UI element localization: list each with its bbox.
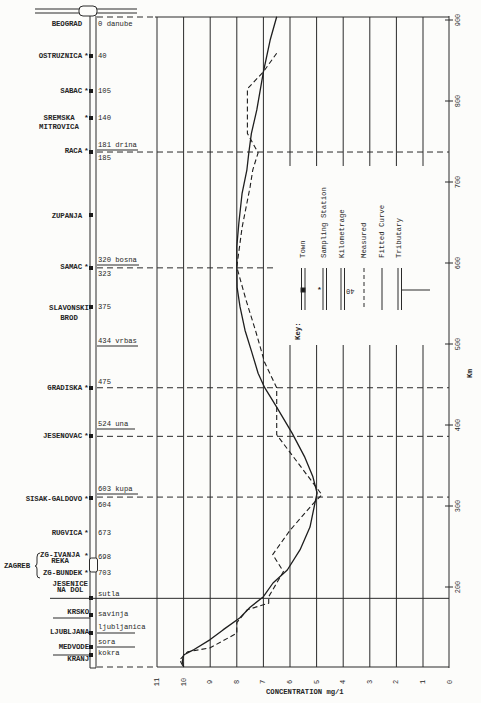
x-tick-label: 10 <box>180 676 188 688</box>
km-label: 323 <box>98 270 111 278</box>
tributary-label-kokra: kokra <box>98 649 120 657</box>
town-label-gradiska: GRADISKA <box>47 384 82 392</box>
y-tick-label: 500 <box>454 336 462 352</box>
y-tick-label: 400 <box>454 417 462 433</box>
km-label: 703 <box>98 569 111 577</box>
legend-label-fitted-curve: Fitted Curve <box>378 205 386 258</box>
legend-town-square-icon <box>301 288 305 292</box>
sampling-station-icon: * <box>84 552 89 560</box>
km-label: 105 <box>98 87 111 95</box>
legend-sampling-station-icon: * <box>317 286 322 294</box>
town-label-samac: SAMAC <box>60 263 82 271</box>
sampling-station-icon: * <box>84 263 89 271</box>
legend-label-kilometrage: Kilometrage <box>338 209 346 258</box>
y-tick-label: 800 <box>454 93 462 109</box>
x-tick-label: 1 <box>419 676 427 688</box>
legend-label-tributary: Tributary <box>395 218 403 258</box>
town-label-zg-ivanja-reka: ZG-IVANJA REKA <box>40 552 80 564</box>
town-marker-icon <box>89 496 93 500</box>
town-marker-icon <box>89 645 93 649</box>
x-tick-label: 8 <box>233 676 241 688</box>
x-tick-label: 2 <box>392 676 400 688</box>
km-label: 140 <box>98 114 111 122</box>
km-label: 698 <box>98 553 111 561</box>
town-label-zg-bundek: ZG-BUNDEK <box>43 569 82 577</box>
town-label-slavonski-brod: SLAVONSKI BROD <box>49 303 89 323</box>
legend-km-sample: 40 <box>346 287 354 294</box>
x-axis-title: CONCENTRATION mg/1 <box>266 688 344 696</box>
town-label-kranj: KRANJ <box>67 655 89 663</box>
town-label-beograd: BEOGRAD <box>52 20 82 28</box>
x-tick-label: 7 <box>259 676 267 688</box>
town-marker-icon <box>89 613 93 617</box>
town-label-jesenovac: JESENOVAC <box>43 432 82 440</box>
y-tick-label: 200 <box>454 579 462 595</box>
zagreb-city-icon <box>90 558 98 572</box>
figure-canvas <box>0 0 481 703</box>
tributary-label-sora: sora <box>98 638 115 646</box>
town-label-sabac: SABAC <box>60 87 82 95</box>
town-marker-icon <box>89 116 93 120</box>
km-label: 40 <box>98 52 107 60</box>
town-label-medvode: MEDVODE <box>59 643 89 651</box>
y-tick-label: 700 <box>454 174 462 190</box>
town-label-line: BROD <box>49 313 89 323</box>
tributary-label-drina: 181 drina <box>98 141 137 149</box>
town-marker-icon <box>89 305 93 309</box>
town-label-line: NA DOL <box>53 588 88 594</box>
tributary-label-una: 524 una <box>98 420 128 428</box>
town-label-raca: RACA <box>65 147 82 155</box>
km-label: 673 <box>98 529 111 537</box>
km-label: 185 <box>98 154 111 162</box>
town-marker-icon <box>89 386 93 390</box>
y-tick-label: 600 <box>454 255 462 271</box>
town-marker-icon <box>89 54 93 58</box>
town-label-jesenice-na-dol: JESENICE NA DOL <box>53 582 88 593</box>
km-label: 475 <box>98 378 111 386</box>
town-label-zupanja: ZUPANJA <box>52 212 82 220</box>
sampling-station-icon: * <box>84 87 89 95</box>
legend-label-measured: Measured <box>360 223 368 258</box>
x-tick-label: 0 <box>446 676 454 688</box>
town-marker-icon <box>89 631 93 635</box>
y-tick-label: 300 <box>454 498 462 514</box>
town-label-ljubljana: LJUBLJANA <box>50 628 89 636</box>
town-marker-icon <box>89 150 93 154</box>
km-label: 0 danube <box>98 20 133 28</box>
km-label: 375 <box>98 303 111 311</box>
town-label-rugvica: RUGVICA <box>52 529 82 537</box>
y-tick-label: 900 <box>454 12 462 28</box>
x-tick-label: 3 <box>366 676 374 688</box>
town-label-line: MITROVICA <box>39 123 79 132</box>
sampling-station-icon: * <box>84 432 89 440</box>
tributary-label-bosna: 320 bosna <box>98 256 137 264</box>
sampling-station-icon: * <box>84 529 89 537</box>
y-axis-title: Km <box>466 369 474 378</box>
town-marker-icon <box>89 89 93 93</box>
x-tick-label: 9 <box>206 676 214 688</box>
legend-title: Key: <box>294 322 302 340</box>
tributary-label-sutla: sutla <box>98 590 120 598</box>
sampling-station-icon: * <box>84 147 89 155</box>
sampling-station-icon: * <box>84 384 89 392</box>
km-label: 604 <box>98 501 111 509</box>
tributary-label-kupa: 603 kupa <box>98 485 133 493</box>
group-label-zagreb: ZAGREB <box>4 562 30 570</box>
tributary-label-savinja: savinja <box>98 610 128 618</box>
town-label-ostruznica: OSTRUZNICA <box>39 52 82 60</box>
town-marker-icon <box>89 213 93 217</box>
x-tick-label: 6 <box>286 676 294 688</box>
x-tick-label: 4 <box>339 676 347 688</box>
legend-label-town: Town <box>299 240 307 258</box>
legend-label-sampling-station: Sampling Station <box>320 187 328 258</box>
town-label-line: SREMSKA <box>39 114 79 123</box>
measured-curve-line <box>180 53 322 667</box>
town-label-sisak-galdovo: SISAK-GALDOVO <box>26 495 82 503</box>
sampling-station-icon: * <box>84 114 89 122</box>
fitted-curve-line <box>182 17 317 667</box>
tributary-label-vrbas: 434 vrbas <box>98 337 137 345</box>
town-label-line: SLAVONSKI <box>49 303 89 313</box>
sampling-station-icon: * <box>84 569 89 577</box>
beograd-city-icon <box>79 6 97 16</box>
sampling-station-icon: * <box>84 52 89 60</box>
